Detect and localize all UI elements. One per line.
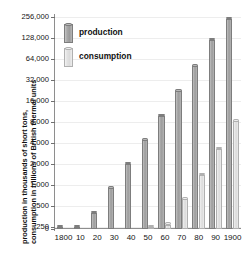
legend-label-consumption: consumption (79, 51, 132, 61)
y-axis-label: 32,000 (26, 76, 49, 84)
bar-consumption (199, 175, 205, 229)
y-axis-label: 2,000 (30, 160, 49, 168)
x-axis-label: 1900 (219, 233, 242, 242)
y-axis-label: 128,000 (22, 34, 49, 42)
plot-area (55, 16, 241, 229)
y-axis-label: 4,000 (30, 139, 49, 147)
legend-label-production: production (79, 27, 123, 37)
y-axis-tick (51, 185, 55, 186)
bar-production (108, 188, 114, 229)
y-axis-tick (51, 227, 55, 228)
y-axis-tick (51, 229, 55, 230)
y-axis-tick (51, 59, 55, 60)
bar-production (57, 227, 63, 229)
y-axis-label: 256,000 (22, 13, 49, 21)
coal-production-consumption-chart: production in thousands of short tons, c… (0, 0, 242, 271)
bar-production (142, 140, 148, 229)
y-axis-tick (51, 164, 55, 165)
bar-consumption (216, 149, 222, 229)
bar-consumption (165, 225, 171, 229)
y-axis-label: 1,000 (30, 181, 49, 189)
legend-swatch-production-icon (64, 24, 73, 43)
y-axis-label: 8,000 (30, 118, 49, 126)
bar-production (158, 116, 164, 229)
y-axis-tick (51, 38, 55, 39)
y-axis-tick (51, 122, 55, 123)
bar-production (125, 164, 131, 229)
y-axis-label: 500 (36, 202, 49, 210)
y-axis-label: 16,000 (26, 97, 49, 105)
bar-consumption (148, 227, 154, 229)
y-axis-tick (51, 17, 55, 18)
gridline (55, 17, 241, 18)
bar-production (91, 213, 97, 229)
bar-production (209, 40, 215, 229)
y-axis-label: 0 (45, 225, 49, 233)
y-axis-tick (51, 143, 55, 144)
y-axis-label: 64,000 (26, 55, 49, 63)
bar-consumption (233, 121, 239, 229)
bar-production (175, 91, 181, 229)
y-axis-tick (51, 206, 55, 207)
legend-swatch-consumption-icon (64, 48, 73, 67)
bar-production (74, 227, 80, 229)
y-axis-tick (51, 101, 55, 102)
bar-consumption (182, 199, 188, 229)
y-axis-tick (51, 80, 55, 81)
bar-production (226, 19, 232, 229)
bar-production (192, 66, 198, 229)
y-axis-title-line-1: production in thousands of short tons, (20, 10, 29, 244)
y-axis-title: production in thousands of short tons, c… (0, 0, 24, 248)
